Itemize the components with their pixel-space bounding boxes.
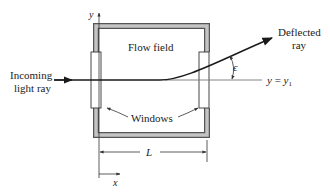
incoming-label-1: Incoming [10, 69, 53, 81]
deflected-label-2: ray [292, 39, 307, 51]
deflected-label-1: Deflected [278, 26, 321, 38]
window-pointer-left [107, 108, 128, 117]
incoming-label-2: light ray [14, 82, 51, 94]
window-pointer-right [178, 108, 198, 117]
flow-field-label: Flow field [128, 41, 174, 53]
schematic: Incoming light ray Flow field Deflected … [0, 0, 330, 195]
y-axis-label: y [88, 9, 94, 20]
diagram-canvas: Incoming light ray Flow field Deflected … [0, 0, 330, 195]
y-eq-y1-label: y = y1 [266, 74, 293, 88]
windows-label: Windows [131, 112, 173, 124]
length-label: L [145, 146, 152, 158]
x-axis-label: x [112, 177, 118, 188]
epsilon-label: ϵ [233, 61, 238, 73]
